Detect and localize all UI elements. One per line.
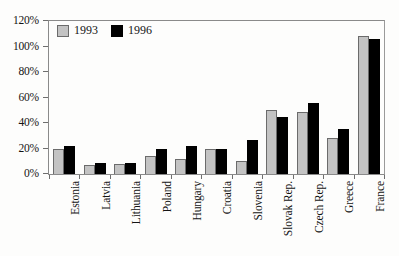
- x-tick-label: France: [374, 181, 386, 212]
- bar-1993-croatia: [205, 149, 216, 175]
- legend: 19931996: [57, 23, 152, 38]
- bar-1993-lithuania: [114, 164, 125, 174]
- bar-1996-slovak-rep: [277, 117, 288, 174]
- bar-1996-poland: [156, 149, 167, 175]
- bar-group: [145, 21, 167, 174]
- x-tick-label: Poland: [161, 181, 173, 212]
- x-tick-label: Latvia: [100, 181, 112, 210]
- y-tick-mark: [43, 122, 48, 123]
- bar-group: [358, 21, 380, 174]
- bar-1996-hungary: [186, 146, 197, 174]
- x-tick-label: Slovenia: [252, 181, 264, 220]
- y-tick-label: 120%: [13, 14, 39, 26]
- bar-1993-slovak-rep: [266, 110, 277, 174]
- bar-1996-slovenia: [247, 140, 258, 174]
- y-axis: 0%20%40%60%80%100%120%: [0, 20, 44, 175]
- y-tick-label: 60%: [19, 91, 39, 103]
- bar-group: [205, 21, 227, 174]
- x-tick-mark: [384, 175, 385, 179]
- bar-1996-lithuania: [125, 163, 136, 174]
- x-tick-label: Greece: [343, 181, 355, 213]
- legend-label: 1993: [74, 23, 98, 38]
- bar-chart: 0%20%40%60%80%100%120% EstoniaLatviaLith…: [0, 0, 399, 256]
- bar-1996-croatia: [216, 149, 227, 175]
- bar-1993-czech-rep: [297, 112, 308, 174]
- x-tick-label: Hungary: [191, 181, 203, 221]
- y-tick-mark: [43, 173, 48, 174]
- x-axis-labels: EstoniaLatviaLithuaniaPolandHungaryCroat…: [49, 179, 384, 253]
- bar-1993-latvia: [84, 165, 95, 174]
- bar-group: [114, 21, 136, 174]
- legend-label: 1996: [128, 23, 152, 38]
- bar-1993-hungary: [175, 159, 186, 174]
- bar-group: [327, 21, 349, 174]
- bar-1996-france: [369, 39, 380, 174]
- bar-1993-estonia: [53, 149, 64, 175]
- y-tick-mark: [43, 46, 48, 47]
- bar-group: [236, 21, 258, 174]
- bar-group: [84, 21, 106, 174]
- bar-groups: [49, 21, 384, 174]
- y-tick-label: 80%: [19, 65, 39, 77]
- plot-area: [49, 21, 384, 174]
- bar-1993-greece: [327, 138, 338, 174]
- y-tick-label: 20%: [19, 142, 39, 154]
- y-tick-label: 40%: [19, 116, 39, 128]
- y-tick-mark: [43, 20, 48, 21]
- bar-group: [266, 21, 288, 174]
- y-tick-label: 0%: [24, 167, 39, 179]
- y-tick-mark: [43, 97, 48, 98]
- bar-1996-latvia: [95, 163, 106, 174]
- x-tick-label: Lithuania: [130, 181, 142, 224]
- bar-1996-estonia: [64, 146, 75, 174]
- legend-item: 1996: [111, 23, 152, 38]
- bar-1993-france: [358, 36, 369, 174]
- y-tick-label: 100%: [13, 40, 39, 52]
- bar-1993-poland: [145, 156, 156, 174]
- x-tick-label: Czech Rep.: [313, 181, 325, 233]
- bar-group: [53, 21, 75, 174]
- bar-1993-slovenia: [236, 161, 247, 174]
- x-tick-label: Estonia: [69, 181, 81, 215]
- y-tick-mark: [43, 148, 48, 149]
- x-tick-label: Slovak Rep.: [282, 181, 294, 236]
- bar-group: [297, 21, 319, 174]
- legend-item: 1993: [57, 23, 98, 38]
- legend-swatch-icon: [111, 25, 123, 37]
- bar-1996-greece: [338, 129, 349, 174]
- y-tick-mark: [43, 71, 48, 72]
- bar-group: [175, 21, 197, 174]
- x-tick-label: Croatia: [221, 181, 233, 214]
- legend-swatch-icon: [57, 25, 69, 37]
- bar-1996-czech-rep: [308, 103, 319, 174]
